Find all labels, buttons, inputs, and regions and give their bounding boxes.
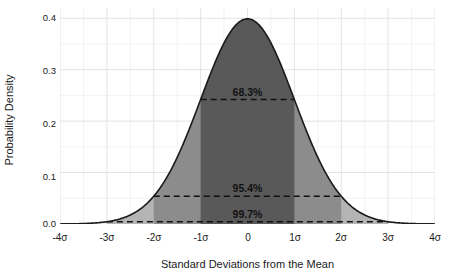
y-tick-label: 0.4 — [30, 13, 56, 23]
annotation-68: 68.3% — [233, 86, 263, 98]
normal-distribution-chart: Probability Density 0.4 0.3 0.2 0.1 0.0 — [0, 0, 457, 276]
annotation-99: 99.7% — [233, 208, 263, 220]
x-tick-label: -4σ — [40, 232, 80, 244]
x-tick-label: 3σ — [368, 232, 408, 244]
x-tick-label: -1σ — [181, 232, 221, 244]
x-tick-label: 0 — [228, 232, 268, 244]
y-tick-label: 0.3 — [30, 66, 56, 76]
y-tick-label: 0.1 — [30, 172, 56, 182]
x-axis-title: Standard Deviations from the Mean — [60, 258, 435, 270]
x-tick-label: -2σ — [134, 232, 174, 244]
annotation-95: 95.4% — [233, 182, 263, 194]
y-tick-label: 0.2 — [30, 119, 56, 129]
y-axis-title: Probability Density — [2, 0, 16, 240]
y-tick-label: 0.0 — [30, 219, 56, 229]
x-tick-label: 1σ — [275, 232, 315, 244]
plot-area: 68.3% 95.4% 99.7% — [60, 8, 435, 224]
x-tick-label: 2σ — [321, 232, 361, 244]
x-axis-tick-labels: -4σ -3σ -2σ -1σ 0 1σ 2σ 3σ 4σ — [0, 232, 457, 248]
x-tick-label: 4σ — [415, 232, 455, 244]
x-tick-label: -3σ — [87, 232, 127, 244]
